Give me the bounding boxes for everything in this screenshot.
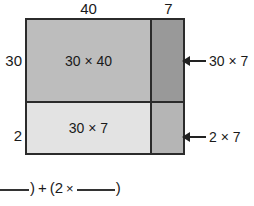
callout-top-right: 30 × 7 xyxy=(182,52,248,70)
area-cell-bottom-left: 30 × 7 xyxy=(27,103,152,153)
equation-plus-sign: + xyxy=(38,176,47,200)
equation-paren-close-1: ) xyxy=(30,176,35,200)
area-rectangle: 30 × 40 30 × 7 xyxy=(25,18,185,155)
column-label-40: 40 xyxy=(25,1,152,17)
answer-blank-right[interactable] xyxy=(77,189,115,191)
equation-line: )+(2×) xyxy=(0,176,254,202)
row-label-30: 30 xyxy=(0,53,22,69)
equation-times-sign: × xyxy=(66,177,74,201)
callout-label-2x7: 2 × 7 xyxy=(209,129,241,145)
area-cell-top-left: 30 × 40 xyxy=(27,20,152,103)
equation-paren-open-2: (2 xyxy=(50,176,63,200)
area-cell-top-right xyxy=(152,20,183,103)
answer-blank-left[interactable] xyxy=(0,189,29,191)
arrow-left-icon xyxy=(182,56,206,66)
equation-paren-close-2: ) xyxy=(116,176,121,200)
callout-label-30x7: 30 × 7 xyxy=(209,53,248,69)
column-label-7: 7 xyxy=(152,1,185,17)
callout-bottom-right: 2 × 7 xyxy=(182,128,241,146)
arrow-left-icon xyxy=(182,132,206,142)
area-cell-bottom-right xyxy=(152,103,183,153)
area-model-figure: 40 7 30 2 30 × 40 30 × 7 30 × 7 2 × 7 )+… xyxy=(0,0,254,206)
row-label-2: 2 xyxy=(0,128,22,144)
